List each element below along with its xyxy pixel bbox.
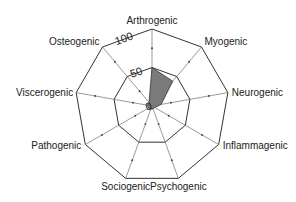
tick-dot bbox=[158, 123, 160, 125]
tick-dot bbox=[139, 90, 141, 92]
axis-label-osteogenic: Osteogenic bbox=[49, 36, 100, 47]
axis-label-viscerogenic: Viscerogenic bbox=[16, 87, 73, 98]
tick-dot bbox=[168, 115, 170, 117]
scale-label-50: 50 bbox=[128, 65, 144, 80]
tick-dot bbox=[208, 95, 210, 97]
axis-label-neurogenic: Neurogenic bbox=[232, 87, 283, 98]
tick-dot bbox=[171, 159, 173, 161]
axis-line-inflammagenic bbox=[152, 106, 219, 145]
tick-dot bbox=[101, 134, 103, 136]
tick-dot bbox=[151, 47, 153, 49]
axis-line-viscerogenic bbox=[76, 93, 152, 106]
tick-dot bbox=[114, 61, 116, 63]
tick-dot bbox=[201, 134, 203, 136]
tick-dot bbox=[188, 61, 190, 63]
tick-dot bbox=[134, 115, 136, 117]
tick-dot bbox=[170, 102, 172, 104]
tick-dot bbox=[131, 159, 133, 161]
axis-line-pathogenic bbox=[85, 106, 152, 145]
axis-line-osteogenic bbox=[103, 47, 152, 106]
tick-dot bbox=[94, 95, 96, 97]
radar-chart: ArthrogenicMyogenicNeurogenicInflammagen… bbox=[0, 0, 296, 202]
axis-label-arthrogenic: Arthrogenic bbox=[126, 15, 177, 26]
axis-label-psychogenic: Psychogenic bbox=[150, 181, 207, 192]
axis-label-inflammagenic: Inflammagenic bbox=[223, 140, 288, 151]
scale-label-100: 100 bbox=[113, 29, 134, 47]
tick-dot bbox=[132, 102, 134, 104]
axis-label-pathogenic: Pathogenic bbox=[31, 140, 81, 151]
axis-label-myogenic: Myogenic bbox=[204, 36, 247, 47]
tick-dot bbox=[145, 123, 147, 125]
axis-label-sociogenic: Sociogenic bbox=[101, 181, 150, 192]
